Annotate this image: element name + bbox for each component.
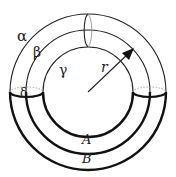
inner-circle-lower-arc (43, 92, 133, 137)
label-region-a: A (81, 132, 91, 147)
label-alpha: α (17, 27, 27, 45)
inner-circle-upper-arc (43, 47, 133, 92)
torus-diagram: α β γ δ r A B (0, 0, 176, 177)
middle-circle-upper-arc (26, 30, 150, 92)
label-gamma: γ (59, 62, 67, 78)
radius-arrow-line (88, 52, 130, 92)
label-region-b: B (81, 151, 92, 166)
label-beta: β (33, 44, 41, 60)
label-delta: δ (20, 86, 27, 100)
